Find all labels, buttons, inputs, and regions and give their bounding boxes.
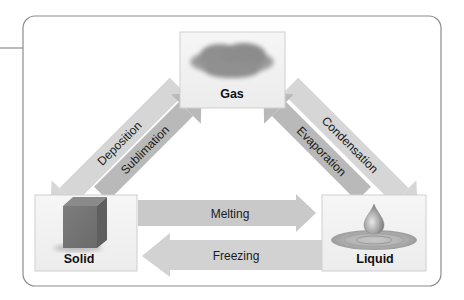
state-gas: Gas: [180, 32, 285, 108]
label-freezing: Freezing: [213, 249, 260, 263]
phase-change-diagram: Deposition Sublimation Condensation Evap…: [0, 0, 464, 300]
state-liquid: Liquid: [322, 195, 426, 271]
label-solid: Solid: [64, 252, 95, 266]
label-melting: Melting: [211, 207, 250, 221]
label-liquid: Liquid: [356, 252, 394, 266]
state-solid: Solid: [35, 195, 137, 271]
label-gas: Gas: [220, 87, 244, 101]
